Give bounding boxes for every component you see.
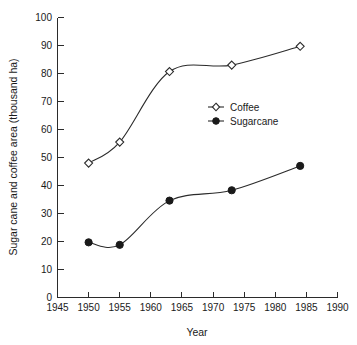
y-tick-label: 50: [41, 152, 53, 163]
x-tick-label: 1960: [140, 302, 163, 313]
y-tick-label: 70: [41, 96, 53, 107]
y-tick-label: 40: [41, 180, 53, 191]
x-axis-ticks: [58, 292, 338, 298]
y-tick-label: 60: [41, 124, 53, 135]
chart-page: 0 10 20 30 40 50 60 70 80 90 100: [0, 0, 357, 345]
data-point-filled-circle: [228, 187, 235, 194]
x-tick-label: 1945: [46, 302, 69, 313]
y-tick-label: 90: [41, 40, 53, 51]
coffee-markers: [85, 42, 305, 167]
data-point-filled-circle: [85, 239, 92, 246]
x-tick-label: 1950: [77, 302, 100, 313]
x-tick-label: 1985: [295, 302, 318, 313]
data-point-open-diamond: [296, 42, 304, 50]
data-point-filled-circle: [116, 241, 123, 248]
y-axis-ticks: [58, 18, 64, 298]
legend-label-coffee: Coffee: [230, 102, 260, 113]
y-tick-label: 20: [41, 236, 53, 247]
series-sugarcane: [85, 162, 304, 248]
y-axis-title: Sugar cane and coffee area (thousand ha): [7, 58, 19, 255]
data-point-open-diamond: [85, 159, 93, 167]
x-tick-label: 1980: [264, 302, 287, 313]
x-tick-label: 1965: [171, 302, 194, 313]
x-axis-tick-labels: 1945 1950 1955 1960 1965 1970 1975 1980 …: [46, 302, 349, 313]
x-tick-label: 1990: [326, 302, 349, 313]
data-point-filled-circle: [166, 197, 173, 204]
open-diamond-icon: [212, 103, 219, 111]
sugarcane-line: [89, 166, 301, 248]
sugarcane-markers: [85, 162, 304, 248]
data-point-open-diamond: [228, 61, 236, 69]
legend-label-sugarcane: Sugarcane: [230, 116, 279, 127]
legend: Coffee Sugarcane: [208, 102, 279, 127]
y-axis-tick-labels: 0 10 20 30 40 50 60 70 80 90 100: [35, 12, 52, 303]
filled-circle-icon: [213, 118, 220, 125]
y-tick-label: 100: [35, 12, 52, 23]
legend-entry-coffee: Coffee: [208, 102, 260, 113]
y-tick-label: 80: [41, 68, 53, 79]
x-tick-label: 1975: [233, 302, 256, 313]
line-chart: 0 10 20 30 40 50 60 70 80 90 100: [0, 0, 357, 345]
y-tick-label: 30: [41, 208, 53, 219]
series-coffee: [85, 42, 305, 167]
x-tick-label: 1955: [109, 302, 132, 313]
legend-entry-sugarcane: Sugarcane: [208, 116, 279, 127]
y-tick-label: 10: [41, 264, 53, 275]
x-tick-label: 1970: [202, 302, 225, 313]
x-axis-title: Year: [186, 326, 208, 338]
data-point-filled-circle: [297, 162, 304, 169]
